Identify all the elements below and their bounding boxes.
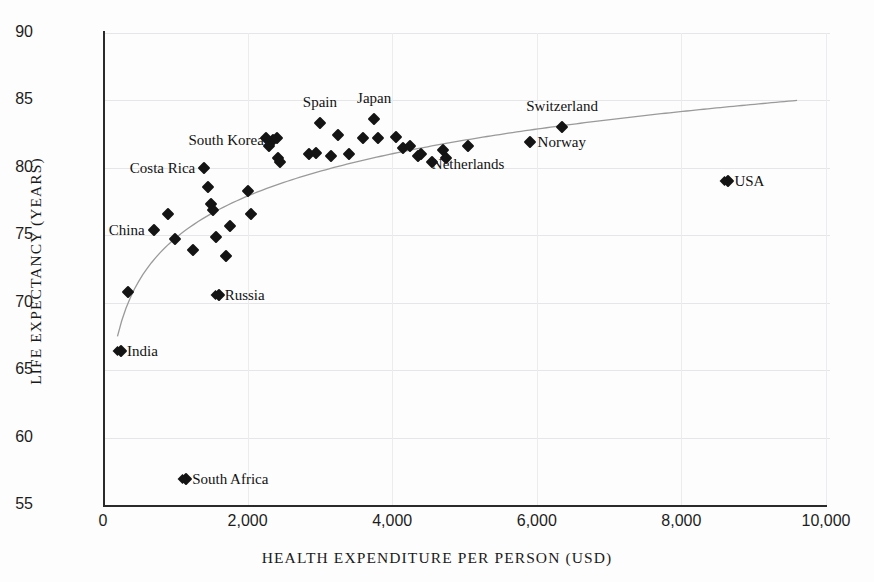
point-label-text: USA <box>734 173 764 189</box>
diamond-marker-icon <box>720 176 730 186</box>
point-label-text: South Korea <box>188 131 263 147</box>
point-label-china: China <box>109 222 145 237</box>
point-label-text: Spain <box>303 94 337 110</box>
point-label-text: South Africa <box>192 471 268 487</box>
point-label-south-africa: South Africa <box>179 472 268 487</box>
point-label-text: China <box>109 221 145 237</box>
point-label-text: Norway <box>538 134 586 150</box>
scatter-chart: 5560657075808590 02,0004,0006,0008,00010… <box>0 0 874 582</box>
point-label-text: Japan <box>357 90 391 106</box>
point-label-text: Switzerland <box>526 98 598 114</box>
point-label-norway: Norway <box>538 135 586 150</box>
diamond-marker-icon <box>113 346 123 356</box>
point-label-india: India <box>114 344 158 359</box>
point-label-text: Costa Rica <box>130 159 195 175</box>
point-label-usa: USA <box>721 174 764 189</box>
point-label-russia: Russia <box>212 287 265 302</box>
diamond-marker-icon <box>210 290 220 300</box>
point-label-spain: Spain <box>303 95 337 110</box>
x-axis-title: HEALTH EXPENDITURE PER PERSON (USD) <box>0 549 874 567</box>
point-label-japan: Japan <box>357 91 391 106</box>
point-label-costa-rica: Costa Rica <box>130 160 195 175</box>
point-label-south-korea: South Korea <box>188 132 263 147</box>
point-label-text: Russia <box>225 286 265 302</box>
point-label-text: India <box>127 343 158 359</box>
diamond-marker-icon <box>178 474 188 484</box>
y-axis-title: LIFE EXPECTANCY (YEARS) <box>27 81 45 461</box>
point-label-switzerland: Switzerland <box>526 99 598 114</box>
